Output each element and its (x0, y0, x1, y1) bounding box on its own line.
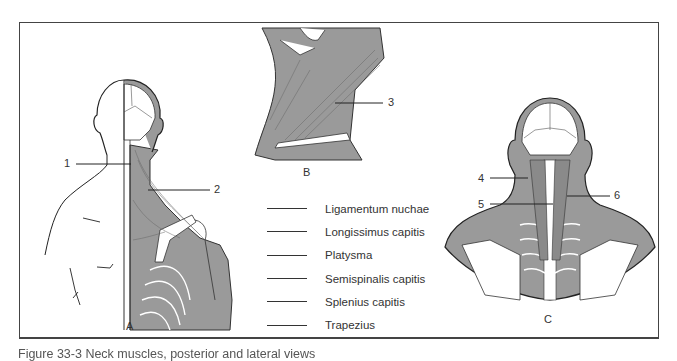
term-label: Splenius capitis (325, 296, 405, 308)
panel-a-illustration (45, 80, 232, 330)
panel-b-illustration (255, 28, 384, 160)
callout-number-1: 1 (64, 157, 70, 169)
answer-blank-line (267, 255, 307, 256)
panel-c-illustration (445, 98, 655, 300)
figure-caption: Figure 33-3 Neck muscles, posterior and … (18, 347, 315, 361)
term-label: Platysma (325, 249, 372, 261)
answer-term-list: Ligamentum nuchae Longissimus capitis Pl… (267, 197, 429, 337)
callout-number-3: 3 (388, 96, 394, 108)
term-row: Trapezius (267, 313, 429, 336)
answer-blank-line (267, 231, 307, 232)
answer-blank-line (267, 278, 307, 279)
panel-label-b: B (303, 166, 310, 178)
answer-blank-line (267, 325, 307, 326)
term-row: Platysma (267, 244, 429, 267)
term-row: Semispinalis capitis (267, 267, 429, 290)
answer-blank-line (267, 301, 307, 302)
panel-label-c: C (544, 313, 552, 325)
term-row: Ligamentum nuchae (267, 197, 429, 220)
callout-number-6: 6 (614, 189, 620, 201)
term-label: Ligamentum nuchae (325, 203, 429, 215)
term-label: Trapezius (325, 319, 375, 331)
callout-number-5: 5 (478, 198, 484, 210)
term-row: Splenius capitis (267, 290, 429, 313)
callout-number-2: 2 (214, 183, 220, 195)
panel-label-a: A (126, 320, 133, 332)
callout-number-4: 4 (478, 172, 484, 184)
term-row: Longissimus capitis (267, 220, 429, 243)
term-label: Semispinalis capitis (325, 273, 425, 285)
term-label: Longissimus capitis (325, 226, 425, 238)
answer-blank-line (267, 208, 307, 209)
